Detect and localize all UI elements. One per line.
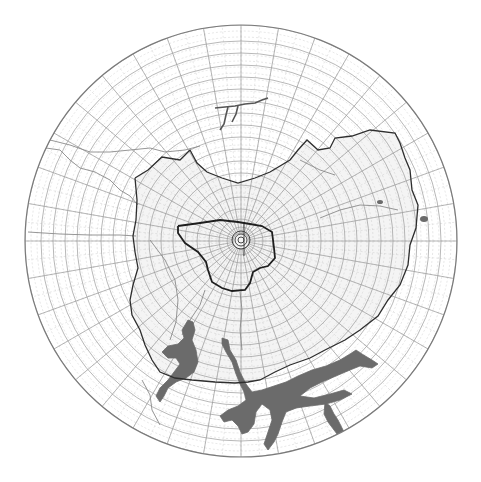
small-lake: [377, 200, 383, 204]
polar-map-canvas: [0, 0, 481, 482]
polar-map-figure: [0, 0, 481, 482]
small-lake: [420, 216, 428, 222]
